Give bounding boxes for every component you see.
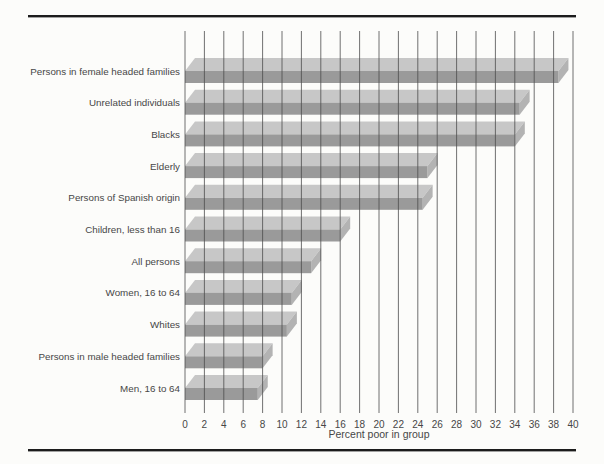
x-tick-label-0: 0 (182, 419, 188, 430)
bar-all-persons (185, 248, 321, 273)
category-label-persons-in-female-headed-families: Persons in female headed families (30, 66, 180, 77)
category-label-blacks: Blacks (151, 129, 180, 140)
category-label-whites: Whites (150, 319, 180, 330)
bar-children-less-than-16 (185, 217, 350, 242)
category-label-all-persons: All persons (132, 256, 181, 267)
top-rule (28, 15, 576, 17)
figure-page: Persons in female headed familiesUnrelat… (0, 0, 604, 464)
category-label-persons-of-spanish-origin: Persons of Spanish origin (68, 192, 180, 203)
bar-front-face (185, 166, 428, 178)
x-tick-label-14: 14 (315, 419, 327, 430)
bar-front-face (185, 325, 287, 337)
x-tick-label-38: 38 (548, 419, 560, 430)
x-tick-label-8: 8 (260, 419, 266, 430)
x-tick-label-40: 40 (567, 419, 579, 430)
bar-blacks (185, 121, 525, 146)
category-label-children-less-than-16: Children, less than 16 (85, 224, 180, 235)
bar-top-face (185, 343, 273, 356)
gridlines-group (185, 31, 573, 413)
x-tick-label-34: 34 (509, 419, 521, 430)
x-tick-label-36: 36 (529, 419, 541, 430)
x-tick-label-6: 6 (240, 419, 246, 430)
bar-top-face (185, 58, 568, 71)
category-label-persons-in-male-headed-families: Persons in male headed families (38, 351, 180, 362)
bar-front-face (185, 103, 520, 115)
bar-persons-in-female-headed-families (185, 58, 568, 83)
bar-top-face (185, 185, 433, 198)
bar-top-face (185, 248, 321, 261)
bar-top-face (185, 153, 438, 166)
category-labels-group: Persons in female headed familiesUnrelat… (30, 66, 180, 394)
bar-front-face (185, 198, 423, 210)
x-tick-label-28: 28 (451, 419, 463, 430)
x-tick-label-12: 12 (296, 419, 308, 430)
x-tick-label-32: 32 (490, 419, 502, 430)
bar-top-face (185, 375, 268, 388)
bar-top-face (185, 312, 297, 325)
bar-front-face (185, 261, 311, 273)
bar-front-face (185, 134, 515, 146)
x-tick-label-4: 4 (221, 419, 227, 430)
category-label-unrelated-individuals: Unrelated individuals (89, 97, 180, 108)
x-tick-label-2: 2 (202, 419, 208, 430)
bar-persons-of-spanish-origin (185, 185, 433, 210)
x-tick-label-30: 30 (470, 419, 482, 430)
bar-front-face (185, 388, 258, 400)
x-tick-label-10: 10 (276, 419, 288, 430)
bar-whites (185, 312, 297, 337)
x-axis-title: Percent poor in group (329, 428, 430, 440)
bar-men-16-to-64 (185, 375, 268, 400)
category-label-men-16-to-64: Men, 16 to 64 (120, 383, 180, 394)
bar-persons-in-male-headed-families (185, 343, 273, 368)
bar-unrelated-individuals (185, 90, 530, 115)
bar-top-face (185, 121, 525, 134)
bar-elderly (185, 153, 438, 178)
bottom-rule (28, 449, 576, 451)
x-tick-label-26: 26 (432, 419, 444, 430)
bars-group (185, 58, 568, 400)
category-label-elderly: Elderly (150, 161, 180, 172)
bar-top-face (185, 217, 350, 230)
bar-chart: Persons in female headed familiesUnrelat… (0, 0, 604, 464)
bar-front-face (185, 293, 292, 305)
category-label-women-16-to-64: Women, 16 to 64 (106, 287, 181, 298)
bar-front-face (185, 71, 558, 83)
bar-top-face (185, 90, 530, 103)
